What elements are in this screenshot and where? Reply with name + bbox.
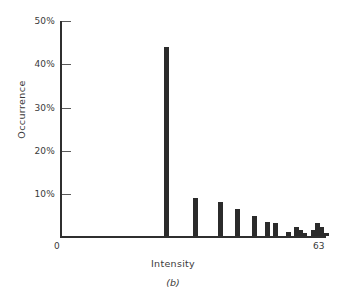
- histogram-bar: [286, 232, 291, 236]
- histogram-bar: [193, 198, 198, 236]
- bar-series: [0, 0, 346, 297]
- histogram-bar: [218, 202, 223, 236]
- histogram-figure: Occurrence 50% 40% 30% 20% 10% 0 63 Inte…: [0, 0, 346, 297]
- histogram-bar: [235, 209, 240, 236]
- histogram-bar: [252, 216, 257, 236]
- histogram-bar: [302, 233, 307, 236]
- x-axis-label: Intensity: [0, 258, 346, 269]
- histogram-bar: [265, 222, 270, 236]
- histogram-bar: [324, 233, 329, 236]
- histogram-bar: [164, 47, 169, 236]
- figure-caption: (b): [0, 277, 346, 288]
- histogram-bar: [273, 223, 278, 236]
